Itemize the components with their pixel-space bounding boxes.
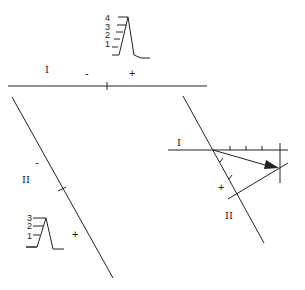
lead-II-label: II — [22, 174, 30, 185]
lead-I-positive-sign: + — [129, 67, 135, 79]
vector-arrowhead-icon — [264, 160, 279, 169]
vector-diagram: 4 3 2 1 I - + II - + 3 2 1 — [0, 0, 305, 290]
lead-I-label: I — [45, 64, 49, 75]
waveform-I-tick-1: 1 — [105, 39, 110, 49]
waveform-lead-II: 3 2 1 — [26, 213, 64, 249]
lead-I-negative-sign: - — [85, 67, 89, 79]
construction-lead-II-label: II — [225, 210, 233, 221]
lead-II-positive-sign: + — [72, 228, 78, 240]
lead-II-axis: II - + — [12, 97, 113, 278]
waveform-II-tick-2: 2 — [27, 221, 32, 231]
waveform-lead-I: 4 3 2 1 — [105, 13, 150, 58]
construction-positive-sign: + — [218, 181, 224, 193]
lead-I-axis: I - + — [8, 64, 207, 90]
waveform-II-tick-1: 1 — [27, 231, 32, 241]
lead-II-negative-sign: - — [35, 156, 39, 168]
construction-lead-I-label: I — [177, 137, 181, 148]
vector-construction: I II + — [168, 96, 288, 243]
